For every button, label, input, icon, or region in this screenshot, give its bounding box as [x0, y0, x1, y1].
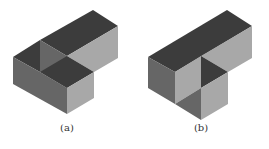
figure-a: (a) — [0, 0, 134, 149]
caption-b: (b) — [134, 122, 268, 133]
caption-a: (a) — [0, 122, 134, 133]
figure-b: (b) — [134, 0, 268, 149]
